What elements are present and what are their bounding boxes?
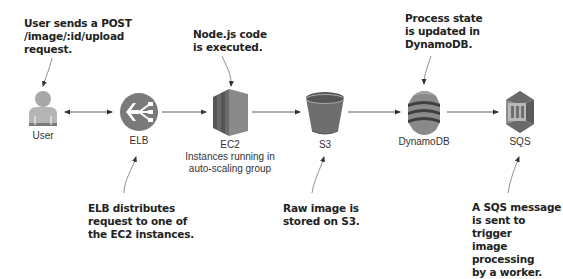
annotation-dynamodb-state: Process state is updated in DynamoDB. [405,12,482,51]
annotation-s3-storage: Raw image is stored on S3. [283,202,360,228]
leader-ec2 [222,56,231,86]
load-balancer-icon [120,93,158,131]
leader-s3 [312,157,324,193]
node-label-dynamodb: DynamoDB [394,136,454,148]
annotation-sqs-message: A SQS message is sent to trigger image p… [472,201,563,279]
node-label-ec2-subtitle-line1: Instances running in [180,151,280,163]
sqs-queue-icon [506,91,534,133]
node-label-ec2: EC2 [215,139,245,151]
leader-user [43,58,52,86]
annotation-ec2-node-execution: Node.js code is executed. [193,28,267,54]
dynamodb-icon [408,91,440,135]
ec2-instances-icon [213,89,248,136]
leader-elb [124,157,136,193]
node-label-user: User [28,130,58,142]
node-label-sqs: SQS [505,136,535,148]
annotation-user-request: User sends a POST /image/:id/upload requ… [24,17,132,56]
s3-bucket-icon [306,92,344,134]
node-label-s3: S3 [310,139,340,151]
leader-sqs [508,157,519,193]
node-label-elb: ELB [124,135,154,147]
annotation-elb-distribution: ELB distributes request to one of the EC… [88,202,194,241]
leader-dynamodb [424,56,431,84]
user-icon [29,91,57,126]
node-label-ec2-subtitle-line2: auto-scaling group [180,163,280,175]
